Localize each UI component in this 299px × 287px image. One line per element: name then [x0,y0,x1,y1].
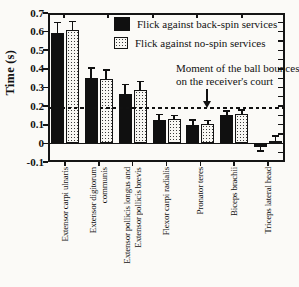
error-bar-cap-backspin [88,67,95,69]
y-tick-label: 0.4 [16,62,44,75]
bar-nospin [269,141,282,144]
y-minor-tick [278,124,283,125]
y-minor-tick [278,115,283,116]
legend: Flick against back-spin services Flick a… [114,17,277,55]
error-bar-line-nospin [72,21,74,29]
y-minor-tick [278,50,283,51]
bar-backspin [119,94,132,143]
error-bar-cap-nospin [171,115,178,117]
x-category-tick [200,162,202,166]
error-bar-cap-nospin [69,21,76,23]
y-tick-label: 0.1 [16,118,44,131]
bar-nospin [201,124,214,144]
y-minor-tick [278,152,283,153]
x-category-label-text: Extensor carpi ulnaris [60,167,71,242]
error-bar-cap-nospin [204,120,211,122]
x-category-tick [98,162,100,166]
error-bar-line-backspin [57,22,59,33]
y-minor-tick [278,59,283,60]
legend-swatch-nospin [114,37,128,49]
error-bar-line-nospin [105,70,107,79]
zero-line [48,143,285,145]
y-tick-label: 0.5 [16,44,44,57]
x-category-tick [166,162,168,166]
error-bar-cap-nospin [272,135,279,137]
error-bar-line-nospin [139,81,141,90]
x-category-tick [233,162,235,166]
y-tick-label: 0.3 [16,81,44,94]
annotation-line-1: Moment of the ball bounces [176,62,299,75]
bar-chart-figure: Time (s) Flick against back-spin service… [0,0,299,287]
error-bar-cap-backspin [122,84,129,86]
legend-item-backspin: Flick against back-spin services [114,17,277,31]
x-category-label-text: Extensor digitorum communis [88,167,109,233]
x-category-tick [64,162,66,166]
legend-label-nospin: Flick against no-spin services [135,37,265,49]
y-minor-tick [278,31,283,32]
annotation-arrow-head [203,101,211,108]
error-bar-line-backspin [90,68,92,78]
bar-nospin [100,79,113,143]
error-bar-cap-backspin [223,110,230,112]
error-bar-cap-nospin [137,81,144,83]
bar-backspin [85,78,98,143]
bar-backspin [220,115,233,144]
error-bar-cap-backspin [156,114,163,116]
bar-backspin [51,33,64,143]
y-tick-label: -0.1 [16,156,44,169]
reference-dashed-line [48,107,285,109]
x-category-tick [132,162,134,166]
legend-label-backspin: Flick against back-spin services [137,18,277,30]
error-bar-cap-backspin [257,150,264,152]
x-category-label: Triceps lateral head [246,167,290,234]
y-minor-tick [278,22,283,23]
bar-nospin [235,114,248,144]
annotation-ball-bounce: Moment of the ball bounces on the receiv… [176,62,299,88]
y-minor-tick [278,96,283,97]
top-tick [107,13,109,18]
y-tick-label: 0.2 [16,100,44,113]
error-bar-cap-backspin [54,22,61,24]
top-tick [63,13,65,18]
x-category-label-text: Triceps lateral head [263,167,274,234]
y-tick-label: 0 [16,137,44,150]
y-minor-tick [278,40,283,41]
x-category-label-text: Biceps brachii [229,167,240,216]
error-bar-cap-nospin [103,69,110,71]
x-category-label-text: Extensor pollicis longus and Extensor po… [122,167,143,264]
error-bar-line-backspin [124,85,126,94]
bar-nospin [134,90,147,143]
y-tick-label: 0.7 [16,7,44,20]
error-bar-cap-backspin [189,119,196,121]
error-bar-cap-nospin [238,109,245,111]
annotation-line-2: on the receiver's court [176,75,299,88]
error-bar-line-backspin [158,115,160,121]
legend-item-nospin: Flick against no-spin services [114,37,277,49]
x-category-label-text: Flexor carpi radialis [161,167,172,235]
y-tick-label: 0.6 [16,25,44,38]
x-category-tick [267,162,269,166]
bar-nospin [66,30,79,144]
bar-backspin [186,125,199,144]
legend-swatch-backspin [114,17,130,31]
x-category-label-text: Pronator teres [195,167,206,214]
bar-nospin [168,119,181,143]
bar-backspin [153,120,166,143]
